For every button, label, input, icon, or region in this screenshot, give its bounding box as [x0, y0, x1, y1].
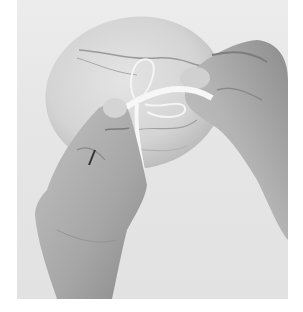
photo	[17, 0, 288, 299]
left-hand	[35, 98, 147, 299]
photo-illustration	[17, 0, 288, 299]
